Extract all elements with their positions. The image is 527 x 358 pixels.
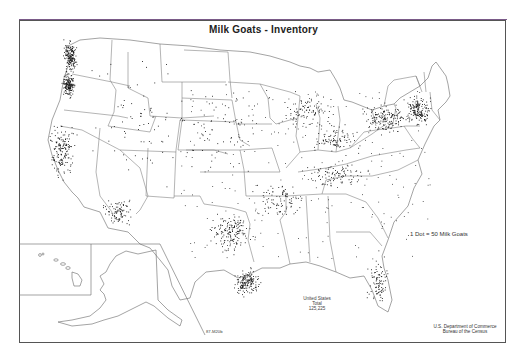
goat-dot (201, 126, 202, 127)
goat-dot (58, 145, 59, 146)
goat-dot (400, 120, 401, 121)
goat-dot (302, 116, 303, 117)
goat-dot (68, 90, 69, 91)
goat-dot (73, 57, 74, 58)
goat-dot (355, 245, 356, 246)
hawaii-islands (39, 253, 82, 286)
goat-dot (396, 179, 397, 180)
goat-dot (387, 273, 388, 274)
goat-dot (251, 277, 252, 278)
goat-dot (73, 85, 74, 86)
goat-dot (252, 282, 253, 283)
goat-dot (232, 227, 233, 228)
goat-dot (129, 201, 130, 202)
goat-dot (239, 226, 240, 227)
goat-dot (234, 214, 235, 215)
goat-dot (388, 112, 389, 113)
goat-dot (296, 198, 297, 199)
goat-dot (348, 135, 349, 136)
goat-dot (279, 211, 280, 212)
goat-dot (285, 189, 286, 190)
goat-dot (69, 64, 70, 65)
goat-dot (426, 114, 427, 115)
goat-dot (391, 217, 392, 218)
goat-dot (335, 164, 336, 165)
goat-dot (414, 99, 415, 100)
goat-dot (410, 111, 411, 112)
goat-dot (416, 117, 417, 118)
goat-dot (311, 173, 312, 174)
goat-dot (63, 139, 64, 140)
goat-dot (192, 166, 193, 167)
goat-dot (428, 108, 429, 109)
goat-dot (58, 175, 59, 176)
goat-dot (329, 139, 330, 140)
goat-dot (268, 198, 269, 199)
goat-dot (415, 112, 416, 113)
goat-dot (314, 167, 315, 168)
goat-dot (151, 108, 152, 109)
goat-dot (407, 118, 408, 119)
goat-dot (367, 297, 368, 298)
goat-dot (190, 141, 191, 142)
goat-dot (225, 228, 226, 229)
goat-dot (330, 144, 331, 145)
goat-dot (382, 128, 383, 129)
goat-dot (69, 147, 70, 148)
goat-dot (385, 118, 386, 119)
goat-dot (309, 110, 310, 111)
goat-dot (76, 62, 77, 63)
goat-dot (71, 57, 72, 58)
goat-dot (243, 145, 244, 146)
goat-dot (426, 108, 427, 109)
goat-dot (383, 288, 384, 289)
goat-dot (417, 105, 418, 106)
goat-dot (67, 138, 68, 139)
goat-dot (249, 106, 250, 107)
goat-dot (212, 227, 213, 228)
goat-dot (65, 157, 66, 158)
goat-dot (245, 278, 246, 279)
goat-dot (414, 113, 415, 114)
goat-dot (126, 159, 127, 160)
goat-dot (378, 250, 379, 251)
goat-dot (341, 176, 342, 177)
goat-dot (383, 121, 384, 122)
goat-dot (123, 105, 124, 106)
goat-dot (67, 151, 68, 152)
goat-dot (69, 85, 70, 86)
goat-dot (68, 47, 69, 48)
goat-dot (235, 222, 236, 223)
goat-dot (384, 223, 385, 224)
goat-dot (192, 195, 193, 196)
goat-dot (213, 220, 214, 221)
goat-dot (237, 142, 238, 143)
goat-dot (384, 111, 385, 112)
goat-dot (242, 294, 243, 295)
goat-dot (379, 98, 380, 99)
goat-dot (66, 155, 67, 156)
goat-dot (383, 281, 384, 282)
goat-dot (239, 217, 240, 218)
goat-dot (329, 172, 330, 173)
goat-dot (337, 145, 338, 146)
goat-dot (380, 291, 381, 292)
goat-dot (231, 227, 232, 228)
goat-dot (204, 124, 205, 125)
goat-dot (239, 137, 240, 138)
goat-dot (245, 282, 246, 283)
goat-dot (337, 171, 338, 172)
goat-dot (245, 276, 246, 277)
goat-dot (389, 114, 390, 115)
goat-dot (238, 282, 239, 283)
goat-dot (60, 149, 61, 150)
goat-dot (375, 121, 376, 122)
goat-dot (336, 142, 337, 143)
goat-dot (60, 145, 61, 146)
goat-dot (256, 185, 257, 186)
goat-dot (115, 211, 116, 212)
goat-dot (184, 190, 185, 191)
goat-dot (60, 146, 61, 147)
goat-dot (109, 211, 110, 212)
goat-dot (72, 133, 73, 134)
